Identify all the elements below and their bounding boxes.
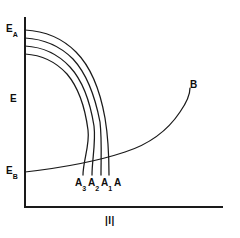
curve-label-b: B	[190, 80, 197, 90]
polarization-diagram-figure: EA EB E |I| B A3 A2 A1 A	[0, 0, 240, 238]
axis-lines	[25, 18, 222, 207]
curve-label-a1: A1	[101, 178, 112, 190]
label-potential-ea: EA	[6, 24, 18, 36]
label-potential-ea-base: E	[6, 23, 13, 34]
curve-b	[25, 88, 190, 172]
curve-label-a3: A3	[75, 178, 86, 190]
curve-label-a2-subscript: 2	[95, 185, 99, 192]
curve-label-a2: A2	[88, 178, 99, 190]
curve-label-a1-subscript: 1	[108, 185, 112, 192]
curve-label-a: A	[114, 178, 121, 188]
label-potential-eb-subscript: B	[13, 173, 18, 180]
label-potential-eb-base: E	[6, 165, 13, 176]
curve-a	[25, 30, 109, 175]
curve-a3	[25, 54, 88, 175]
plot-canvas	[0, 0, 240, 238]
y-axis-label: E	[10, 94, 17, 104]
curve-label-a3-subscript: 3	[82, 185, 86, 192]
label-potential-ea-subscript: A	[13, 31, 18, 38]
label-potential-eb: EB	[6, 166, 18, 178]
x-axis-label: |I|	[105, 216, 115, 226]
